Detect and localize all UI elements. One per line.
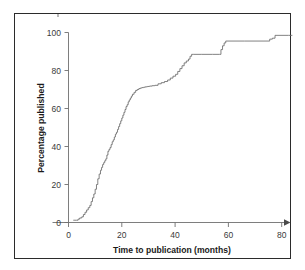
x-tick-label-40: 40 — [170, 230, 180, 240]
y-tick-marks — [65, 33, 69, 223]
y-tick-label-20: 20 — [52, 180, 62, 190]
y-tick-label-100: 100 — [47, 28, 61, 38]
x-axis-arrow-icon — [284, 219, 291, 226]
y-axis-title: Percentage published — [36, 83, 46, 172]
chart-plot: 100 80 60 40 20 0 0 20 40 60 80 Time to … — [0, 0, 305, 270]
figure-root: 100 80 60 40 20 0 0 20 40 60 80 Time to … — [0, 0, 305, 270]
x-tick-label-60: 60 — [224, 230, 234, 240]
y-tick-label-80: 80 — [52, 66, 62, 76]
x-axis-title: Time to publication (months) — [113, 245, 231, 255]
cumulative-publication-step-curve — [73, 35, 292, 220]
x-tick-label-80: 80 — [277, 230, 287, 240]
y-tick-label-0: 0 — [56, 218, 61, 228]
x-tick-label-20: 20 — [117, 230, 127, 240]
y-tick-label-60: 60 — [52, 104, 62, 114]
y-tick-label-40: 40 — [52, 142, 62, 152]
x-tick-marks — [69, 223, 282, 228]
scan-speck — [57, 14, 59, 17]
x-tick-label-0: 0 — [66, 230, 71, 240]
